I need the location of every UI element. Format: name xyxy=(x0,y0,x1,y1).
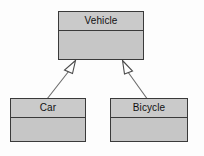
generalization-line-bicycle xyxy=(127,70,149,100)
uml-diagram-canvas: Vehicle Car Bicycle xyxy=(0,0,204,156)
class-name-vehicle: Vehicle xyxy=(59,12,143,31)
generalization-car-to-vehicle xyxy=(47,61,76,100)
class-attributes-car xyxy=(11,118,85,141)
uml-class-bicycle[interactable]: Bicycle xyxy=(110,98,188,142)
class-attributes-bicycle xyxy=(111,118,187,141)
uml-class-vehicle[interactable]: Vehicle xyxy=(58,11,144,60)
generalization-bicycle-to-vehicle xyxy=(123,61,149,101)
hollow-triangle-arrowhead-car xyxy=(65,61,76,74)
hollow-triangle-arrowhead-bicycle xyxy=(123,61,133,75)
class-attributes-vehicle xyxy=(59,31,143,59)
class-name-bicycle: Bicycle xyxy=(111,99,187,118)
class-name-car: Car xyxy=(11,99,85,118)
generalization-line-car xyxy=(47,69,71,99)
uml-class-car[interactable]: Car xyxy=(10,98,86,142)
